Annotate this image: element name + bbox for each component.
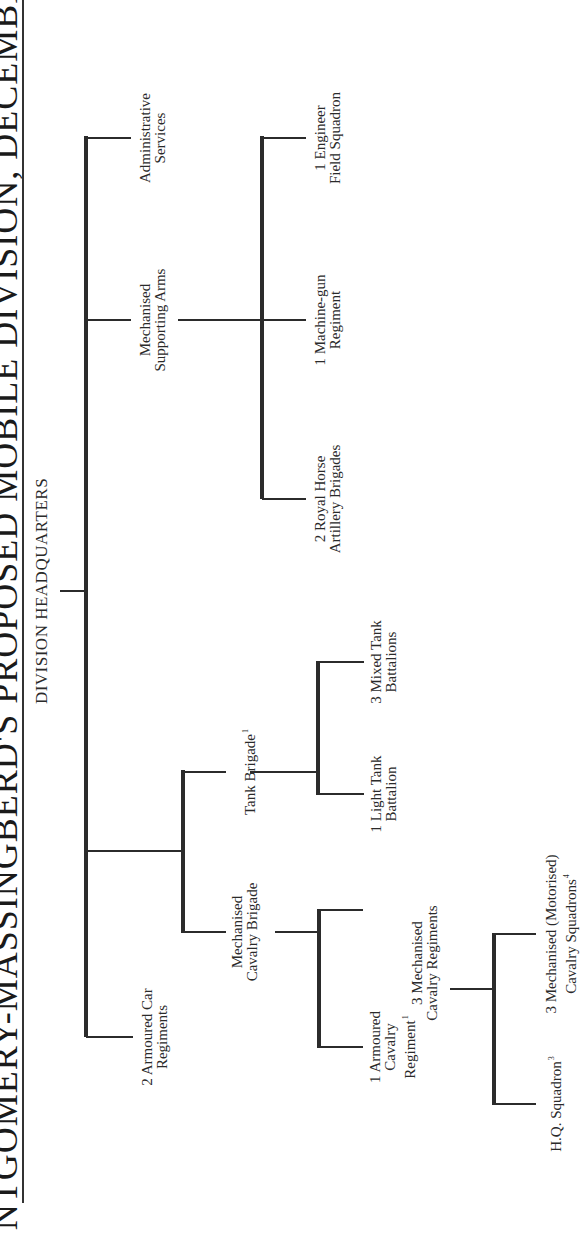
node-mech-support: MechanisedSupporting Arms xyxy=(138,269,168,372)
drop-armoured-cav xyxy=(319,1046,363,1048)
hq-stem xyxy=(60,590,86,592)
stem-mech-cav-regts xyxy=(450,988,494,990)
drop-light-tank xyxy=(318,793,364,795)
main-bar xyxy=(84,136,88,1037)
node-admin-services: AdministrativeServices xyxy=(138,93,168,183)
node-rha-brigades: 2 Royal HorseArtillery Brigades xyxy=(313,445,343,554)
stem-mech-support xyxy=(178,319,262,321)
brigade-bar xyxy=(181,770,185,933)
drop-brigades xyxy=(85,850,183,852)
drop-mixed-tank xyxy=(318,661,364,663)
mech-cav-bar xyxy=(317,909,321,1048)
drop-armoured-car xyxy=(86,1036,133,1038)
drop-mech-cav-regts xyxy=(319,909,363,911)
regiment-bar xyxy=(492,933,496,1105)
node-mech-cav-regiments: 3 MechanisedCavalry Regiments xyxy=(410,905,440,1020)
stem-mech-cav-bde xyxy=(275,931,319,933)
drop-mech-cav-bde xyxy=(183,931,226,933)
drop-hq-squadron xyxy=(494,1103,536,1105)
node-engineer-field-squadron: 1 EngineerField Squadron xyxy=(313,92,343,184)
stem-tank-bde xyxy=(250,771,318,773)
drop-rha xyxy=(262,498,306,500)
node-machine-gun-regiment: 1 Machine-gunRegiment xyxy=(313,274,343,365)
drop-mg xyxy=(262,319,306,321)
division-headquarters: DIVISION HEADQUARTERS xyxy=(34,478,49,704)
tank-bar xyxy=(316,661,320,795)
support-bar xyxy=(260,136,264,499)
node-armoured-cavalry-regiment: 1 Armoured Cavalry Regiment1 xyxy=(368,1011,418,1083)
node-mech-cavalry-squadrons: 3 Mechanised (Motorised) Cavalry Squadro… xyxy=(544,854,579,1013)
drop-admin xyxy=(86,137,131,139)
node-mixed-tank-battalions: 3 Mixed TankBattalions xyxy=(369,620,399,704)
drop-engineer xyxy=(262,137,306,139)
drop-mech-support xyxy=(86,319,131,321)
node-light-tank-battalion: 1 Light TankBattalion xyxy=(369,756,399,833)
node-hq-squadron: H.Q. Squadron3 xyxy=(544,1056,564,1151)
drop-tank-bde xyxy=(183,771,226,773)
node-armoured-car: 2 Armoured CarRegiments xyxy=(140,988,170,1085)
node-mech-cav-brigade: MechanisedCavalry Brigade xyxy=(230,883,260,982)
title-rule xyxy=(22,0,24,1203)
drop-mech-squadrons xyxy=(494,933,536,935)
